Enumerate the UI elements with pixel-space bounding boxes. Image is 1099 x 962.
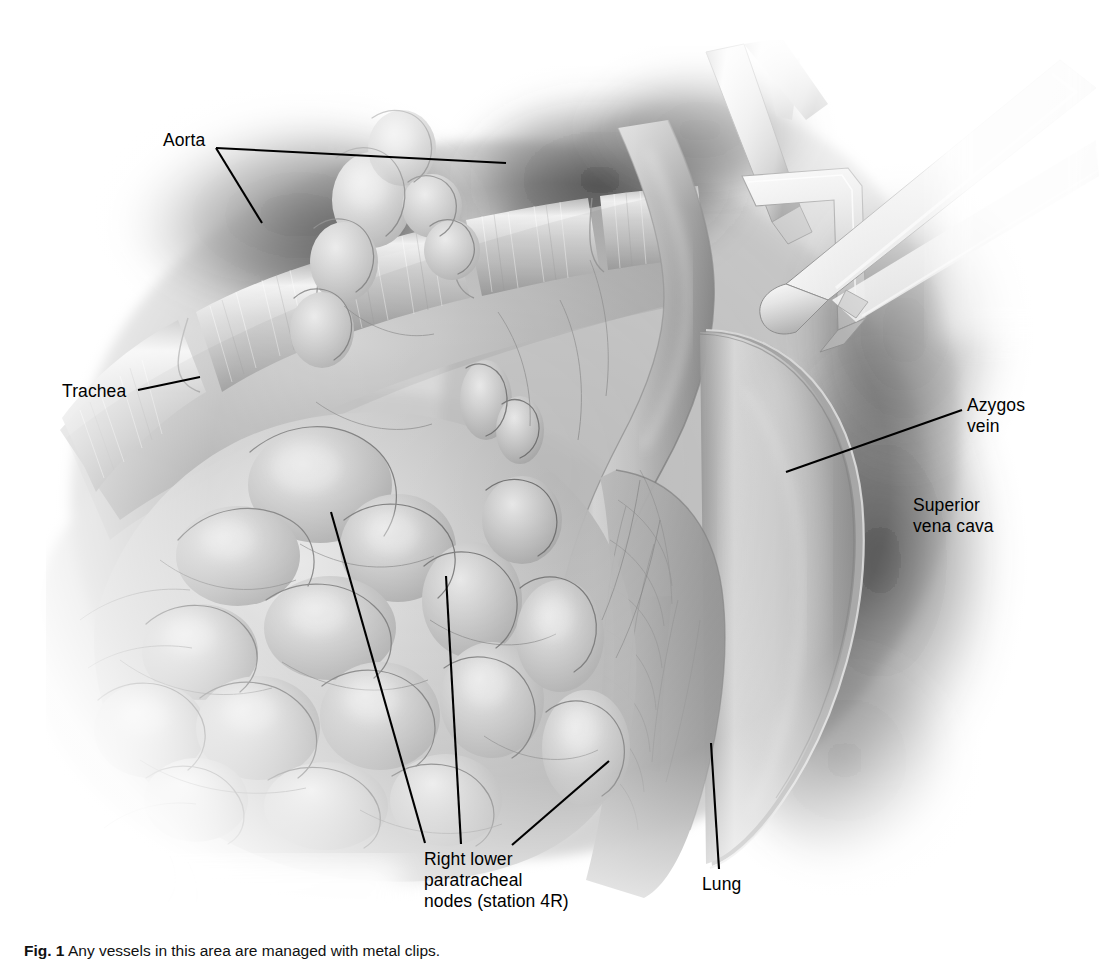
figure-caption-text: Any vessels in this area are managed wit… [68,942,440,959]
label-azygos-vein: Azygos vein [967,395,1025,437]
label-superior-vena-cava: Superior vena cava [913,495,994,537]
label-lung: Lung [702,874,741,895]
figure-caption: Fig. 1 Any vessels in this area are mana… [24,941,1074,962]
label-trachea: Trachea [62,381,126,402]
figure-caption-number: Fig. 1 [24,942,64,959]
label-paratracheal-nodes: Right lower paratracheal nodes (station … [424,849,569,912]
figure-illustration: Aorta Trachea Azygos vein Superior vena … [0,0,1099,962]
label-aorta: Aorta [163,130,205,151]
